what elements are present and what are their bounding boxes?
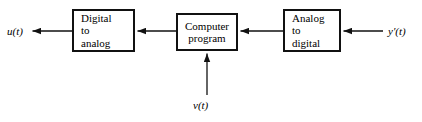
digital-to-analog-block[interactable]: Digital to analog	[72, 9, 135, 52]
digital-to-analog-line-3: analog	[81, 37, 110, 50]
digital-to-analog-line-2: to	[81, 24, 90, 37]
analog-to-digital-line-2: to	[292, 24, 301, 37]
analog-to-digital-block[interactable]: Analog to digital	[283, 9, 341, 52]
digital-to-analog-line-1: Digital	[81, 12, 112, 25]
computer-program-line-2: program	[188, 32, 225, 45]
block-diagram: Digital to analog Computer program Analo…	[0, 0, 422, 122]
computer-program-line-1: Computer	[185, 20, 229, 33]
computer-program-block[interactable]: Computer program	[176, 13, 238, 51]
analog-to-digital-line-3: digital	[292, 37, 320, 50]
reference-signal-v-label: v(t)	[193, 99, 208, 111]
output-signal-u-label: u(t)	[7, 25, 23, 37]
analog-to-digital-line-1: Analog	[292, 12, 324, 25]
input-signal-y-prime-label: y′(t)	[388, 25, 406, 37]
